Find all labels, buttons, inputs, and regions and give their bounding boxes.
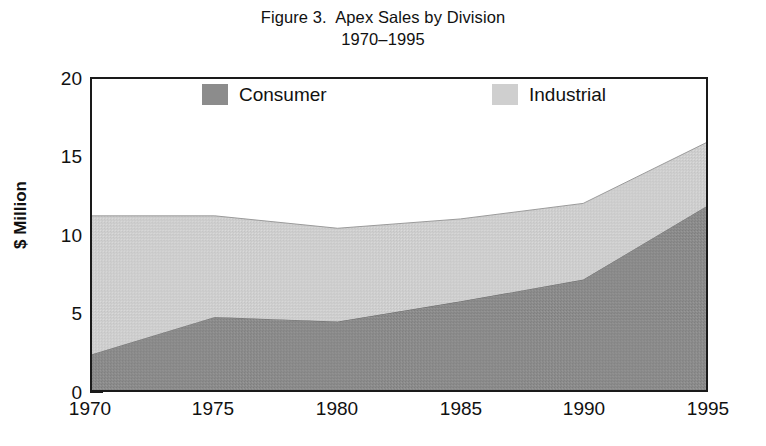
legend-label-consumer: Consumer xyxy=(239,84,327,105)
x-tick-label-1980: 1980 xyxy=(305,398,369,420)
legend-swatch-icon-industrial xyxy=(492,84,518,105)
legend-item-industrial[interactable]: Industrial xyxy=(492,78,606,110)
chart-legend: Consumer Industrial xyxy=(90,78,708,110)
figure-title-block: Figure 3. Apex Sales by Division 1970–19… xyxy=(0,6,766,50)
x-tick-label-1970: 1970 xyxy=(58,398,122,420)
figure-area-chart: Figure 3. Apex Sales by Division 1970–19… xyxy=(0,0,766,446)
plot-area xyxy=(90,77,708,392)
x-tick-label-1975: 1975 xyxy=(181,398,245,420)
y-axis-title: $ Million xyxy=(11,155,31,275)
figure-title-line-1: Figure 3. Apex Sales by Division xyxy=(0,6,766,28)
figure-title-line-2: 1970–1995 xyxy=(0,28,766,50)
x-tick-label-1985: 1985 xyxy=(429,398,493,420)
x-tick-label-1995: 1995 xyxy=(676,398,740,420)
legend-label-industrial: Industrial xyxy=(529,84,606,105)
stacked-area-plot xyxy=(92,79,706,390)
x-tick-label-1990: 1990 xyxy=(552,398,616,420)
legend-swatch-icon-consumer xyxy=(202,84,228,105)
legend-item-consumer[interactable]: Consumer xyxy=(202,78,327,110)
